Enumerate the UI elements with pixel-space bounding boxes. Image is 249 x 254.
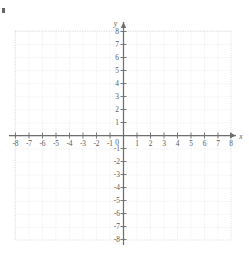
coordinate-plane-figure: -8 -7 -6 -5 -4 -3 -2 -1 1 2 3 4 5 6 7 8 … [0, 0, 249, 254]
y-tick-label: -3 [114, 170, 120, 179]
x-tick-label: -7 [26, 139, 32, 148]
x-tick-label: 8 [229, 139, 233, 148]
x-tick-label: -3 [80, 139, 86, 148]
coordinate-grid-svg: -8 -7 -6 -5 -4 -3 -2 -1 1 2 3 4 5 6 7 8 … [0, 0, 249, 254]
y-tick-label: 4 [115, 79, 119, 88]
y-tick-label: -5 [114, 196, 120, 205]
x-tick-label: -4 [66, 139, 72, 148]
x-tick-label: 7 [216, 139, 220, 148]
x-tick-label: -5 [53, 139, 59, 148]
x-tick-label: 3 [162, 139, 166, 148]
x-tick-label: -2 [93, 139, 99, 148]
x-tick-label: 4 [176, 139, 180, 148]
y-tick-label: -2 [114, 157, 120, 166]
y-tick-label: 3 [115, 92, 119, 101]
x-tick-label: 5 [189, 139, 193, 148]
y-tick-label: 1 [115, 118, 119, 127]
y-tick-label: -8 [114, 235, 120, 244]
y-tick-label: 7 [115, 40, 119, 49]
y-tick-label: 6 [115, 53, 119, 62]
y-tick-label: 8 [115, 27, 119, 36]
y-tick-label: 5 [115, 66, 119, 75]
x-axis-name: x [238, 132, 243, 141]
x-tick-label: 6 [203, 139, 207, 148]
x-tick-label: -8 [12, 139, 18, 148]
y-tick-label: -6 [114, 209, 120, 218]
x-tick-label: 2 [149, 139, 153, 148]
y-axis-arrowhead [121, 22, 126, 28]
y-axis-name: y [113, 19, 118, 28]
y-tick-label: 2 [115, 105, 119, 114]
origin-label: 0 [115, 138, 119, 147]
x-tick-label: -6 [39, 139, 45, 148]
x-tick-label: -1 [107, 139, 113, 148]
x-tick-label: 1 [135, 139, 139, 148]
y-tick-label: -7 [114, 222, 120, 231]
y-tick-label: -4 [114, 183, 120, 192]
